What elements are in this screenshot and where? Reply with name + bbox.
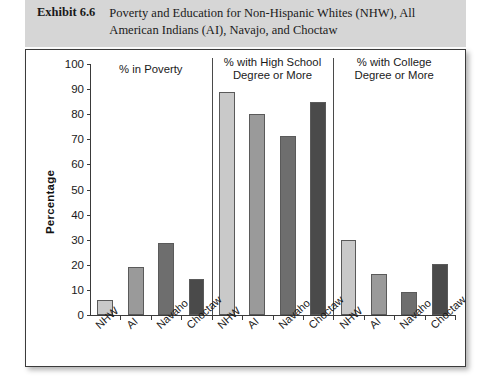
- bar-navaho-group-1: [280, 136, 296, 315]
- y-tick-label-20: 20: [58, 259, 84, 271]
- y-tick-label-60: 60: [58, 158, 84, 170]
- x-tick-mark: [120, 315, 121, 320]
- exhibit-figure: Exhibit 6.6 Poverty and Education for No…: [0, 0, 491, 389]
- bar-ai-group-0: [128, 267, 144, 315]
- x-tick-mark: [394, 315, 395, 320]
- x-tick-mark: [151, 315, 152, 320]
- y-tick-label-40: 40: [58, 209, 84, 221]
- x-label-ai-group-2: AI: [367, 315, 383, 331]
- bar-nhw-group-1: [219, 92, 235, 315]
- exhibit-title: Poverty and Education for Non-Hispanic W…: [109, 5, 415, 38]
- bar-choctaw-group-1: [310, 102, 326, 315]
- y-tick-label-80: 80: [58, 108, 84, 120]
- y-tick-label-30: 30: [58, 234, 84, 246]
- x-tick-mark: [273, 315, 274, 320]
- y-axis-tick-labels: 1009080706050403020100: [56, 50, 84, 366]
- x-tick-mark: [333, 315, 334, 320]
- y-tick-label-10: 10: [58, 284, 84, 296]
- bar-ai-group-2: [371, 274, 387, 315]
- y-tick-label-70: 70: [58, 133, 84, 145]
- x-tick-mark: [212, 315, 213, 320]
- caption-band: Exhibit 6.6 Poverty and Education for No…: [25, 0, 466, 47]
- x-label-ai-group-0: AI: [124, 315, 140, 331]
- exhibit-title-line-1: Poverty and Education for Non-Hispanic W…: [109, 6, 415, 20]
- y-tick-label-90: 90: [58, 83, 84, 95]
- x-tick-mark: [303, 315, 304, 320]
- source-line-clipped: [30, 381, 330, 388]
- bar-ai-group-1: [249, 114, 265, 315]
- x-tick-mark: [181, 315, 182, 320]
- y-tick-label-100: 100: [58, 58, 84, 70]
- x-label-ai-group-1: AI: [245, 315, 261, 331]
- x-tick-mark: [364, 315, 365, 320]
- caption-inner: Exhibit 6.6 Poverty and Education for No…: [37, 5, 458, 38]
- y-tick-label-50: 50: [58, 184, 84, 196]
- chart-panel: Percentage 1009080706050403020100 % in P…: [25, 49, 466, 367]
- bars-layer: [90, 64, 455, 315]
- bar-navaho-group-0: [158, 243, 174, 315]
- x-tick-mark: [455, 315, 456, 320]
- y-axis-label: Percentage: [44, 152, 56, 252]
- x-tick-mark: [242, 315, 243, 320]
- exhibit-number-label: Exhibit 6.6: [37, 5, 95, 20]
- x-tick-mark: [425, 315, 426, 320]
- exhibit-title-line-2: American Indians (AI), Navajo, and Choct…: [109, 23, 337, 37]
- y-tick-label-0: 0: [58, 309, 84, 321]
- bar-chart-plot: Percentage 1009080706050403020100 % in P…: [26, 50, 465, 366]
